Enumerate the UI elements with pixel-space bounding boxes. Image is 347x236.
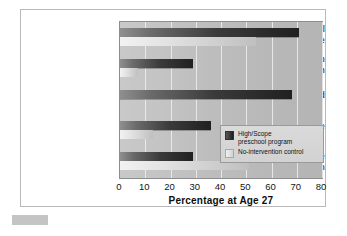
x-axis-tick-label: 10 <box>139 181 150 192</box>
x-axis-title: Percentage at Age 27 <box>119 195 323 206</box>
legend-item-control: No-intervention control <box>225 148 319 158</box>
x-axis-tick-label: 0 <box>116 181 121 192</box>
x-axis-tick-label: 70 <box>290 181 301 192</box>
bar <box>120 130 153 139</box>
legend-swatch-icon-program <box>225 131 234 140</box>
legend-item-program: High/Scope preschool program <box>225 130 319 145</box>
bar <box>120 68 138 77</box>
legend-swatch-icon-control <box>225 149 234 158</box>
legend-label-line: No-intervention control <box>238 148 303 155</box>
bar-row <box>120 90 322 99</box>
bar-row <box>120 68 322 77</box>
chart-legend: High/Scope preschool program No-interven… <box>220 125 324 163</box>
bar <box>120 28 299 37</box>
x-axis-tick-label: 40 <box>215 181 226 192</box>
legend-label-program: High/Scope preschool program <box>238 130 292 145</box>
bar-row <box>120 59 322 68</box>
x-axis-tick-label: 50 <box>240 181 251 192</box>
x-axis-tick-label: 30 <box>189 181 200 192</box>
legend-label-line: preschool program <box>238 138 292 145</box>
x-axis-tick-label: 60 <box>265 181 276 192</box>
bar <box>120 121 211 130</box>
legend-label-control: No-intervention control <box>238 148 303 156</box>
x-axis-tick-labels: 01020304050607080 <box>119 181 323 195</box>
bar <box>120 59 193 68</box>
legend-label-line: High/Scope <box>238 130 272 137</box>
figure-frame: High school graduate Earning more than $… <box>20 9 326 207</box>
bar <box>120 37 256 46</box>
bar-row <box>120 37 322 46</box>
bar <box>120 90 292 99</box>
x-axis-tick-label: 20 <box>164 181 175 192</box>
bar-row <box>120 99 322 108</box>
plot-area: High/Scope preschool program No-interven… <box>119 21 323 179</box>
page-artifact-swatch <box>12 215 48 225</box>
bar <box>120 152 193 161</box>
x-axis-tick-label: 80 <box>316 181 327 192</box>
bar-row <box>120 28 322 37</box>
